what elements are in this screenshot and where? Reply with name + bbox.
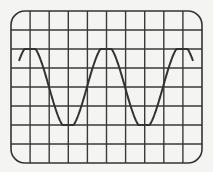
- grid-lines: [11, 11, 202, 163]
- oscilloscope-display: [0, 0, 213, 172]
